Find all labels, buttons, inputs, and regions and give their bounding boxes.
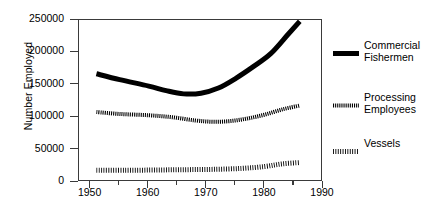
y-axis-tick-label: 250000 (4, 12, 64, 24)
series-line (96, 163, 299, 171)
x-axis-minor-tick (292, 181, 293, 185)
legend-swatch (333, 96, 359, 114)
x-axis-tick-label: 1950 (63, 186, 117, 198)
legend-swatch (333, 44, 359, 62)
y-axis-tick-label: 100000 (4, 109, 64, 121)
x-axis-tick-label: 1970 (179, 186, 233, 198)
x-axis-minor-tick (176, 181, 177, 185)
series-line (96, 106, 299, 122)
y-axis-tick (70, 51, 78, 52)
y-axis-tick (70, 181, 78, 182)
x-axis-minor-tick (234, 181, 235, 185)
legend-label: Vessels (364, 138, 400, 150)
x-axis-tick-label: 1980 (237, 186, 291, 198)
y-axis-tick (70, 116, 78, 117)
y-axis-tick-label: 0 (4, 174, 64, 186)
y-axis-tick (70, 19, 78, 20)
series-line (96, 21, 299, 94)
x-axis-tick-label: 1960 (121, 186, 175, 198)
series-canvas (79, 20, 323, 182)
y-axis-tick-label: 150000 (4, 77, 64, 89)
y-axis-tick (70, 83, 78, 84)
y-axis-tick-label: 50000 (4, 142, 64, 154)
legend-label: Processing Employees (364, 92, 416, 115)
legend-swatch (333, 142, 359, 160)
x-axis-tick-label: 1990 (295, 186, 349, 198)
y-axis-tick (70, 148, 78, 149)
plot-area (78, 19, 322, 181)
x-axis-minor-tick (118, 181, 119, 185)
y-axis-tick-label: 200000 (4, 44, 64, 56)
legend-label: Commercial Fishermen (364, 40, 420, 63)
chart-figure: Number Employed 050000100000150000200000… (0, 0, 427, 214)
